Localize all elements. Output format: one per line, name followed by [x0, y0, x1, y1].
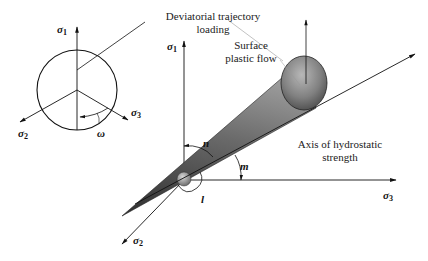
sigma3-label: σ3: [383, 189, 393, 203]
deviatorial-label-line1: Deviatorial trajectory: [166, 10, 261, 22]
axis-label-line1: Axis of hydrostatic: [298, 138, 382, 150]
surface-label-line2: plastic flow: [225, 52, 277, 64]
hydrostatic-axis-line: [135, 54, 415, 204]
cone-cap: [281, 56, 327, 110]
omega-leader: [97, 113, 99, 123]
inset-sigma2-label: σ2: [18, 127, 28, 141]
deviatorial-label-line2: loading: [197, 23, 230, 35]
inset-sigma1-label: σ1: [57, 23, 67, 37]
axis-label-line2: strength: [322, 151, 358, 163]
hydrostatic-axis-diagram: σ1 σ2 σ3 ω σ1 σ3 σ2 n: [0, 0, 428, 261]
origin-sphere: [177, 172, 191, 186]
inset-sigma2-axis: [20, 90, 77, 122]
plastic-flow-cone: [122, 20, 415, 216]
inset-sigma3-label: σ3: [131, 106, 141, 120]
angle-m-label: m: [240, 160, 249, 172]
omega-arc: [80, 108, 108, 117]
surface-label-line1: Surface: [234, 39, 268, 51]
sigma1-label: σ1: [167, 40, 177, 54]
angle-l-label: l: [201, 193, 205, 205]
deviatoric-plane-inset: σ1 σ2 σ3 ω: [18, 22, 145, 141]
inset-sigma3-axis: [77, 90, 128, 120]
deviatorial-leader-line: [77, 22, 145, 70]
angle-n-label: n: [203, 137, 209, 149]
sigma2-label: σ2: [133, 234, 143, 248]
omega-label: ω: [97, 127, 105, 139]
